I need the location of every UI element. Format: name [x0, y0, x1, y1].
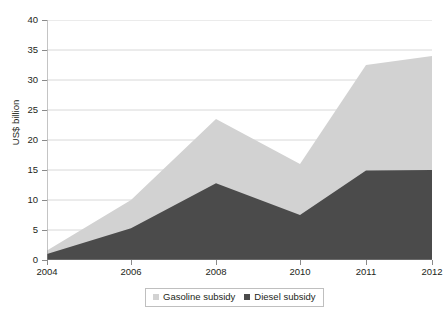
- y-tick-label-30: 30: [8, 75, 38, 85]
- plot-area: [47, 20, 432, 260]
- x-tick-mark-2011: [366, 260, 367, 265]
- y-tick-label-15: 15: [8, 165, 38, 175]
- x-tick-label-2012: 2012: [421, 266, 442, 277]
- x-tick-label-2004: 2004: [36, 266, 57, 277]
- x-tick-label-2008: 2008: [205, 266, 226, 277]
- legend-entry-gasoline: Gasoline subsidy: [153, 292, 235, 302]
- y-tick-label-20: 20: [8, 135, 38, 145]
- x-tick-label-2011: 2011: [356, 266, 376, 277]
- x-tick-mark-2010: [300, 260, 301, 265]
- x-tick-label-2010: 2010: [289, 266, 310, 277]
- legend-label-gasoline: Gasoline subsidy: [163, 292, 235, 302]
- legend-label-diesel: Diesel subsidy: [254, 292, 315, 302]
- chart-legend: Gasoline subsidy Diesel subsidy: [145, 288, 324, 307]
- clipped-header-text: · · · · · ·: [0, 0, 443, 9]
- y-tick-label-35: 35: [8, 45, 38, 55]
- y-tick-label-5: 5: [8, 225, 38, 235]
- y-tick-label-10: 10: [8, 195, 38, 205]
- x-tick-mark-2008: [216, 260, 217, 265]
- x-tick-mark-2012: [432, 260, 433, 265]
- x-tick-label-2006: 2006: [120, 266, 141, 277]
- clipped-header-text-label: · · · · · ·: [186, 0, 212, 1]
- x-tick-mark-2004: [47, 260, 48, 265]
- legend-swatch-diesel-icon: [244, 294, 250, 300]
- y-tick-label-0: 0: [8, 255, 38, 265]
- y-tick-label-40: 40: [8, 15, 38, 25]
- y-tick-label-25: 25: [8, 105, 38, 115]
- legend-entry-diesel: Diesel subsidy: [244, 292, 315, 302]
- legend-swatch-gasoline-icon: [153, 294, 159, 300]
- x-tick-mark-2006: [131, 260, 132, 265]
- plot-svg: [47, 20, 432, 260]
- y-axis-label: US$ billion: [10, 83, 21, 163]
- stacked-area-chart: · · · · · · US$ billion 0510152025303540…: [0, 0, 443, 315]
